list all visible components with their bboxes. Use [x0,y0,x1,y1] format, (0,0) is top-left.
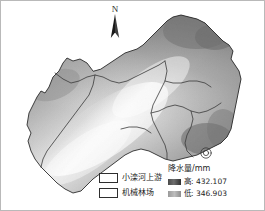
north-arrow: N [105,4,125,38]
north-arrow-icon [105,14,125,38]
legend-label-forest-farm: 机械林场 [122,188,154,197]
legend-item-upper-xiaoluan: 小滦河上游 [99,171,162,184]
precipitation-high-label: 高: 432.107 [184,177,227,186]
precipitation-legend-low: 低: 346.903 [168,188,227,199]
color-ramp-high-icon [168,179,181,185]
precipitation-legend-high: 高: 432.107 [168,176,227,187]
precipitation-legend-title: 降水量/mm [168,164,227,174]
precipitation-low-label: 低: 346.903 [184,189,227,198]
legend-item-forest-farm: 机械林场 [99,186,162,199]
north-arrow-label: N [105,4,125,14]
legend-swatch-upper-xiaoluan [99,173,118,183]
precipitation-legend: 降水量/mm 高: 432.107 低: 346.903 [168,164,227,200]
region-legend: 小滦河上游 机械林场 [99,171,162,201]
map-figure: N 小滦河上游 机械林场 降水量/mm 高: 432.107 低: 346.90… [0,0,265,211]
color-ramp-low-icon [168,191,181,197]
legend-label-upper-xiaoluan: 小滦河上游 [122,173,162,182]
legend-swatch-forest-farm [99,188,118,198]
